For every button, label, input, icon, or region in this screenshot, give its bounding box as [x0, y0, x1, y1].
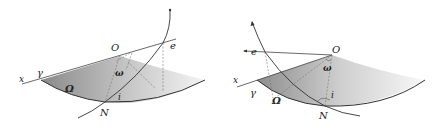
origin-label: O — [111, 42, 119, 53]
omega-capital-label: Ω — [64, 83, 74, 94]
x-axis-label: x — [233, 75, 238, 85]
node-label: N — [99, 107, 110, 118]
orbit-arrowhead — [251, 21, 255, 26]
e-label: e — [170, 40, 176, 51]
orbit-top-dot — [169, 9, 171, 11]
omega-capital-label: Ω — [271, 95, 281, 106]
e-arrowhead — [243, 50, 247, 53]
o-to-e-line — [244, 51, 332, 55]
gamma-label: γ — [37, 67, 43, 78]
e-label: e — [251, 46, 257, 57]
gamma-label: γ — [250, 87, 256, 98]
omega-small-label: ω — [115, 68, 124, 78]
origin-label: O — [332, 44, 340, 55]
inclination-label: i — [331, 90, 334, 100]
reference-plane — [257, 55, 425, 106]
x-axis-label: x — [19, 74, 24, 84]
orbital-elements-diagram: x γ O e ω Ω i N — [0, 0, 439, 128]
reference-plane — [41, 56, 205, 103]
left-figure: x γ O e ω Ω i N — [19, 9, 205, 118]
node-label: N — [318, 110, 329, 121]
right-figure: x γ O e ω Ω i N — [233, 21, 425, 121]
omega-small-label: ω — [323, 63, 332, 73]
diagram-svg: x γ O e ω Ω i N — [0, 0, 439, 128]
inclination-label: i — [118, 92, 121, 102]
